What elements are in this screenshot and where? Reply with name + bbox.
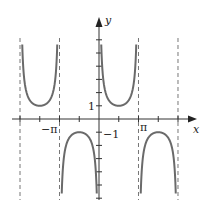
y-axis-arrow-icon — [96, 17, 103, 27]
axes — [12, 17, 197, 200]
x-axis-label: x — [193, 123, 200, 136]
y-tick-label-1: 1 — [88, 100, 95, 113]
y-axis-label: y — [104, 14, 112, 27]
neg-pi-label: −π — [41, 123, 57, 136]
y-tick-label-neg1: −1 — [103, 128, 119, 141]
csc-branch — [22, 44, 57, 105]
x-axis-arrow-icon — [188, 116, 197, 123]
csc-branch — [101, 44, 136, 105]
csc-graph: y x −π π 1 −1 — [0, 0, 209, 212]
pi-label: π — [140, 121, 147, 134]
csc-branch — [141, 132, 176, 193]
csc-branch — [62, 132, 97, 193]
